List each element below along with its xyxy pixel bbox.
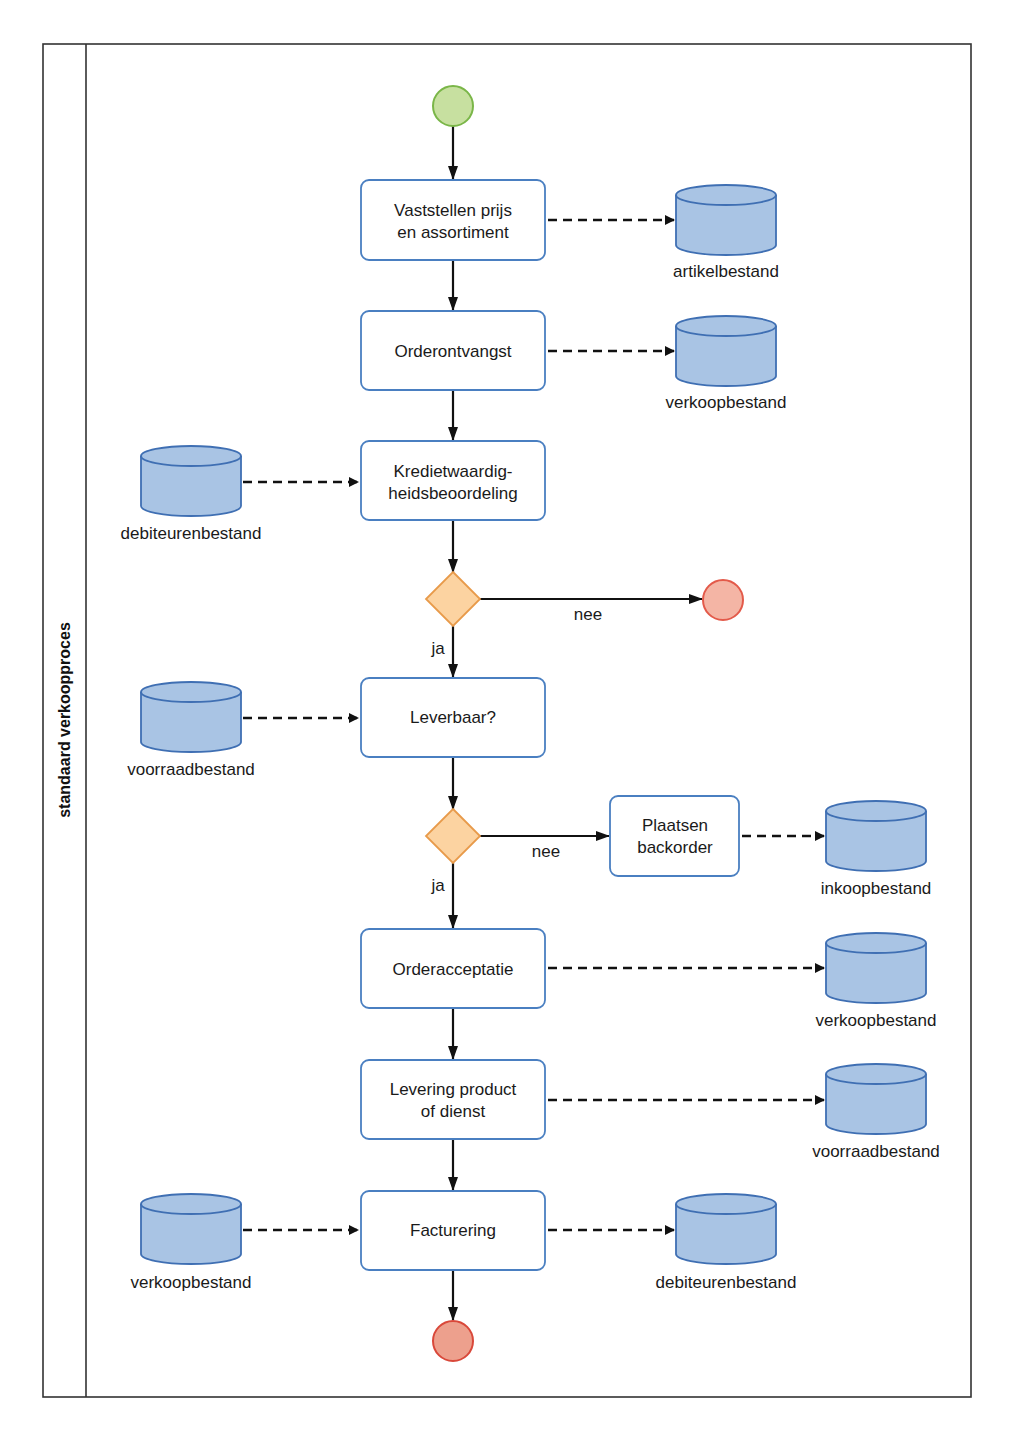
datastore-debiteurenbestand[interactable]: debiteurenbestand — [121, 446, 262, 543]
task-label: Facturering — [410, 1221, 496, 1240]
task-label: Vaststellen prijs — [394, 201, 512, 220]
datastore-label: voorraadbestand — [812, 1142, 940, 1161]
task-kredietwaardigheidsbeoordeling[interactable]: Kredietwaardig- heidsbeoordeling — [361, 441, 545, 520]
task-facturering[interactable]: Facturering — [361, 1191, 545, 1270]
datastore-label: inkoopbestand — [821, 879, 932, 898]
gateway-no-label: nee — [574, 605, 602, 624]
datastore-label: verkoopbestand — [131, 1273, 252, 1292]
task-label: of dienst — [421, 1102, 486, 1121]
datastore-debiteurenbestand-2[interactable]: debiteurenbestand — [656, 1194, 797, 1292]
datastore-label: voorraadbestand — [127, 760, 255, 779]
start-event[interactable] — [433, 86, 473, 126]
datastore-artikelbestand[interactable]: artikelbestand — [673, 185, 779, 281]
task-levering-product[interactable]: Levering product of dienst — [361, 1060, 545, 1139]
gateway-no-label: nee — [532, 842, 560, 861]
gateway-yes-label: ja — [430, 876, 445, 895]
datastore-label: artikelbestand — [673, 262, 779, 281]
end-event-rejected[interactable] — [703, 580, 743, 620]
task-label: Levering product — [390, 1080, 517, 1099]
task-label: heidsbeoordeling — [388, 484, 518, 503]
gateway-yes-label: ja — [430, 639, 445, 658]
task-label: backorder — [637, 838, 713, 857]
task-leverbaar[interactable]: Leverbaar? — [361, 678, 545, 757]
task-label: Orderacceptatie — [393, 960, 514, 979]
datastore-label: debiteurenbestand — [656, 1273, 797, 1292]
datastore-verkoopbestand-3[interactable]: verkoopbestand — [131, 1194, 252, 1292]
datastore-verkoopbestand-2[interactable]: verkoopbestand — [816, 933, 937, 1030]
datastore-label: verkoopbestand — [666, 393, 787, 412]
lane-label: standaard verkoopproces — [56, 622, 73, 818]
task-orderontvangst[interactable]: Orderontvangst — [361, 311, 545, 390]
datastore-label: debiteurenbestand — [121, 524, 262, 543]
datastore-verkoopbestand[interactable]: verkoopbestand — [666, 316, 787, 412]
task-vaststellen-prijs[interactable]: Vaststellen prijs en assortiment — [361, 180, 545, 260]
end-event[interactable] — [433, 1321, 473, 1361]
process-diagram: standaard verkoopproces Vaststellen prij… — [0, 0, 1013, 1434]
datastore-voorraadbestand-2[interactable]: voorraadbestand — [812, 1064, 940, 1161]
task-label: Kredietwaardig- — [393, 462, 512, 481]
task-plaatsen-backorder[interactable]: Plaatsen backorder — [610, 796, 739, 876]
gateway-kredietwaardig[interactable] — [426, 572, 480, 626]
gateway-leverbaar[interactable] — [426, 809, 480, 863]
task-orderacceptatie[interactable]: Orderacceptatie — [361, 929, 545, 1008]
task-label: en assortiment — [397, 223, 509, 242]
datastore-voorraadbestand[interactable]: voorraadbestand — [127, 682, 255, 779]
task-label: Leverbaar? — [410, 708, 496, 727]
task-label: Orderontvangst — [394, 342, 511, 361]
datastore-label: verkoopbestand — [816, 1011, 937, 1030]
task-label: Plaatsen — [642, 816, 708, 835]
datastore-inkoopbestand[interactable]: inkoopbestand — [821, 801, 932, 898]
